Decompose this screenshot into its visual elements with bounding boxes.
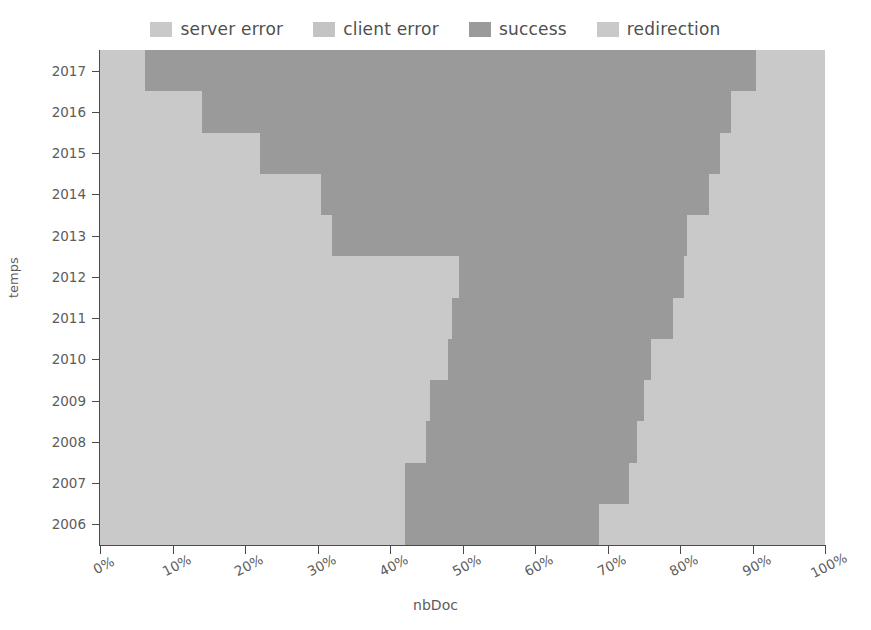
band-segment-dark <box>145 50 756 91</box>
stack-row-2014 <box>100 174 825 215</box>
band-segment-dark <box>405 504 599 545</box>
y-tick-label-wrap: 2007 <box>0 483 86 484</box>
x-tick-mark <box>245 546 246 554</box>
y-tick-label-wrap: 2015 <box>0 153 86 154</box>
band-segment-light <box>756 50 825 91</box>
y-tick-label: 2016 <box>34 104 86 120</box>
x-tick-label: 10% <box>159 551 193 579</box>
x-tick-label: 30% <box>304 551 338 579</box>
band-segment-light <box>720 133 825 174</box>
x-tick-mark <box>390 546 391 554</box>
y-tick-mark <box>92 71 100 72</box>
x-tick-mark <box>173 546 174 554</box>
stack-row-2008 <box>100 421 825 462</box>
x-tick-label: 20% <box>232 551 266 579</box>
legend-label: server error <box>180 19 283 39</box>
legend-swatch-icon <box>469 22 491 37</box>
stack-row-2006 <box>100 504 825 545</box>
legend-swatch-icon <box>313 22 335 37</box>
y-tick-label: 2014 <box>34 186 86 202</box>
band-segment-light <box>100 215 332 256</box>
band-segment-light <box>100 504 405 545</box>
y-tick-label-wrap: 2016 <box>0 112 86 113</box>
y-axis-title: temps <box>6 257 21 298</box>
y-tick-label-wrap: 2014 <box>0 194 86 195</box>
x-tick-label: 90% <box>739 551 773 579</box>
band-segment-light <box>687 215 825 256</box>
legend-label: client error <box>343 19 439 39</box>
legend-entry[interactable]: client error <box>313 19 439 39</box>
y-tick-mark <box>92 236 100 237</box>
x-tick-label: 60% <box>522 551 556 579</box>
y-tick-mark <box>92 318 100 319</box>
band-segment-light <box>100 133 260 174</box>
y-tick-mark <box>92 524 100 525</box>
band-segment-light <box>629 463 825 504</box>
stack-row-2015 <box>100 133 825 174</box>
x-tick-mark <box>753 546 754 554</box>
y-tick-label-wrap: 2010 <box>0 359 86 360</box>
x-tick-label: 50% <box>449 551 483 579</box>
band-segment-light <box>100 50 145 91</box>
band-segment-dark <box>452 298 673 339</box>
band-segment-light <box>100 421 426 462</box>
y-tick-label: 2010 <box>34 351 86 367</box>
stack-row-2016 <box>100 91 825 132</box>
stack-row-2010 <box>100 339 825 380</box>
band-segment-dark <box>448 339 651 380</box>
band-segment-light <box>100 298 452 339</box>
band-segment-light <box>100 256 459 297</box>
y-tick-label: 2008 <box>34 434 86 450</box>
x-tick-mark <box>680 546 681 554</box>
band-segment-dark <box>405 463 630 504</box>
legend-label: redirection <box>627 19 721 39</box>
y-tick-label-wrap: 2009 <box>0 401 86 402</box>
legend-entry[interactable]: redirection <box>597 19 721 39</box>
band-segment-light <box>100 174 321 215</box>
y-tick-mark <box>92 194 100 195</box>
band-segment-light <box>651 339 825 380</box>
band-segment-light <box>684 256 825 297</box>
y-tick-mark <box>92 112 100 113</box>
y-tick-label: 2012 <box>34 269 86 285</box>
y-tick-label: 2011 <box>34 310 86 326</box>
legend-entry[interactable]: success <box>469 19 567 39</box>
band-segment-light <box>709 174 825 215</box>
band-segment-dark <box>260 133 720 174</box>
stack-row-2012 <box>100 256 825 297</box>
legend-swatch-icon <box>150 22 172 37</box>
chart-legend: server errorclient errorsuccessredirecti… <box>0 14 871 44</box>
stack-row-2013 <box>100 215 825 256</box>
y-tick-label: 2015 <box>34 145 86 161</box>
legend-entry[interactable]: server error <box>150 19 283 39</box>
band-segment-dark <box>459 256 684 297</box>
x-tick-mark <box>463 546 464 554</box>
x-tick-mark <box>318 546 319 554</box>
band-segment-light <box>644 380 825 421</box>
y-tick-label: 2017 <box>34 63 86 79</box>
y-tick-label-wrap: 2006 <box>0 524 86 525</box>
y-tick-label: 2007 <box>34 475 86 491</box>
x-tick-label: 100% <box>808 549 850 581</box>
x-tick-mark <box>535 546 536 554</box>
x-tick-mark <box>825 546 826 554</box>
band-segment-light <box>100 91 202 132</box>
x-tick-mark <box>100 546 101 554</box>
x-tick-label: 80% <box>667 551 701 579</box>
x-tick-label: 40% <box>377 551 411 579</box>
stack-row-2009 <box>100 380 825 421</box>
y-tick-label: 2009 <box>34 393 86 409</box>
y-tick-label-wrap: 2017 <box>0 71 86 72</box>
band-segment-light <box>100 463 405 504</box>
band-segment-dark <box>202 91 731 132</box>
y-tick-label-wrap: 2011 <box>0 318 86 319</box>
y-tick-mark <box>92 483 100 484</box>
band-segment-dark <box>321 174 709 215</box>
legend-label: success <box>499 19 567 39</box>
band-segment-light <box>100 380 430 421</box>
band-segment-dark <box>430 380 644 421</box>
stack-row-2007 <box>100 463 825 504</box>
stack-row-2017 <box>100 50 825 91</box>
chart-figure: server errorclient errorsuccessredirecti… <box>0 0 871 630</box>
y-axis-line <box>99 50 100 546</box>
